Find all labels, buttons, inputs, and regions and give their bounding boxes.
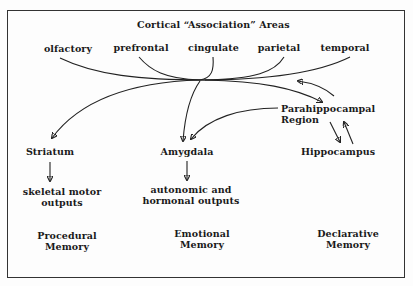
node-temporal: temporal <box>318 42 372 53</box>
node-prefrontal: prefrontal <box>112 42 170 53</box>
node-parahippocampal: Parahippocampal Region <box>281 103 375 125</box>
node-striatum: Striatum <box>24 146 76 157</box>
node-skeletal-motor-outputs: skeletal motor outputs <box>20 186 104 208</box>
diagram-title: Cortical “Association” Areas <box>137 19 277 30</box>
emotional-memory: Emotional Memory <box>170 228 234 250</box>
node-autonomic-hormonal-outputs: autonomic and hormonal outputs <box>141 184 241 206</box>
declarative-memory: Declarative Memory <box>313 228 383 250</box>
node-olfactory: olfactory <box>40 43 96 54</box>
node-amygdala: Amygdala <box>155 146 219 157</box>
node-parietal: parietal <box>256 42 302 53</box>
node-hippocampus: Hippocampus <box>300 146 376 157</box>
procedural-memory: Procedural Memory <box>32 230 102 252</box>
node-cingulate: cingulate <box>188 42 238 53</box>
